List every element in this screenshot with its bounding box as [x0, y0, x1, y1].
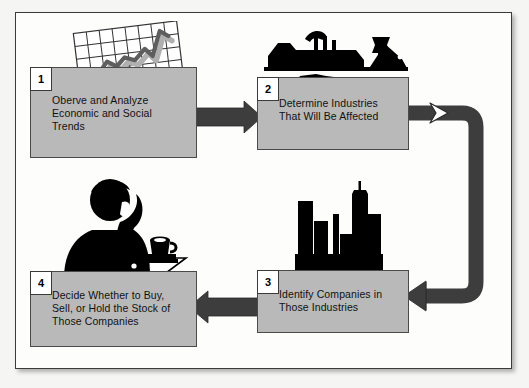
step-number-badge-1: 1: [30, 67, 52, 91]
step-label-1: Oberve and Analyze Economic and Social T…: [52, 94, 186, 134]
arrow-left-icon: [186, 290, 264, 324]
process-step-4[interactable]: 4 Decide Whether to Buy, Sell, or Hold t…: [30, 271, 197, 347]
process-step-2[interactable]: 2 Determine Industries That Will Be Affe…: [257, 77, 409, 150]
diagram-canvas: 1 Oberve and Analyze Economic and Social…: [0, 0, 529, 388]
elbow-arrow-icon: [400, 96, 492, 312]
step-label-2: Determine Industries That Will Be Affect…: [279, 97, 398, 123]
step-label-3: Identify Companies in Those Industries: [279, 288, 398, 314]
step-number-badge-4: 4: [30, 271, 52, 295]
step-number-badge-3: 3: [257, 270, 279, 294]
step-label-4: Decide Whether to Buy, Sell, or Hold the…: [52, 289, 186, 329]
arrow-right-icon: [188, 100, 264, 134]
step-number-badge-2: 2: [257, 77, 279, 101]
process-step-3[interactable]: 3 Identify Companies in Those Industries: [257, 270, 409, 333]
process-step-1[interactable]: 1 Oberve and Analyze Economic and Social…: [30, 67, 197, 158]
